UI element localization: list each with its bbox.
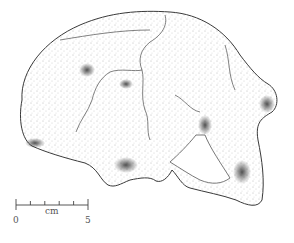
scale-start-label: 0 — [13, 216, 19, 225]
scale-unit-label: cm — [45, 207, 59, 216]
shade-patch — [233, 160, 251, 184]
scale-end-label: 5 — [85, 216, 91, 225]
shade-patch — [79, 63, 95, 77]
shade-patch — [25, 138, 45, 148]
shade-patch — [119, 79, 133, 89]
shade-patch — [259, 95, 275, 113]
shade-patch — [198, 115, 212, 135]
shade-patch — [114, 157, 138, 173]
